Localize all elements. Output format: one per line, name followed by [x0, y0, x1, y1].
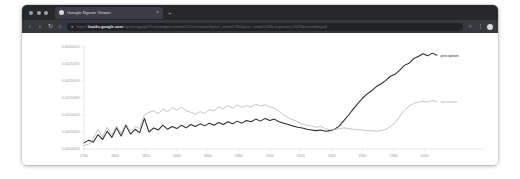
home-icon[interactable]: ⌂ — [57, 24, 63, 30]
ngram-chart: 0.003000%0.002500%0.002000%0.001500%0.00… — [22, 33, 498, 165]
y-axis-tick-label: 0.002500% — [62, 62, 81, 66]
y-axis-tick-label: 0.001500% — [62, 96, 81, 100]
window-controls — [29, 11, 48, 15]
address-bar-url: https://books.google.com/ngrams/graph?co… — [76, 24, 326, 29]
legend-label-sensation[interactable]: sensation — [440, 99, 457, 104]
browser-window: Google Ngram Viewer × + ‹ › ↻ ⌂ ● https:… — [22, 5, 498, 165]
y-axis-tick-label: 0.001000% — [62, 113, 81, 117]
x-axis-tick-label: 2000 — [421, 154, 429, 158]
minimize-window-icon[interactable] — [37, 11, 41, 15]
chart-background — [22, 33, 498, 165]
y-axis-tick-label: 0.002000% — [62, 79, 81, 83]
x-axis-tick-label: 1980 — [390, 154, 398, 158]
x-axis-tick-label: 1920 — [297, 154, 305, 158]
ngram-chart-svg: 0.003000%0.002500%0.002000%0.001500%0.00… — [22, 33, 498, 165]
extensions-menu-icon[interactable]: ⋮ — [477, 24, 483, 30]
browser-titlebar: Google Ngram Viewer × + — [22, 5, 498, 20]
reload-icon[interactable]: ↻ — [47, 24, 53, 30]
y-axis-tick-label: 0.003000% — [62, 45, 81, 49]
x-axis-tick-label: 1800 — [111, 154, 119, 158]
forward-icon[interactable]: › — [37, 24, 43, 30]
tab-title: Google Ngram Viewer — [67, 10, 153, 15]
y-axis-tick-label: 0.000000% — [62, 147, 81, 151]
x-axis-tick-label: 1820 — [142, 154, 150, 158]
bookmark-star-icon[interactable]: ☆ — [467, 24, 473, 30]
back-icon[interactable]: ‹ — [27, 24, 33, 30]
screenshot-root: Google Ngram Viewer × + ‹ › ↻ ⌂ ● https:… — [0, 0, 520, 179]
y-axis-tick-label: 0.000500% — [62, 130, 81, 134]
legend-label-perception[interactable]: perception — [440, 53, 458, 58]
profile-avatar-icon[interactable] — [487, 24, 493, 30]
close-window-icon[interactable] — [29, 11, 33, 15]
lock-icon: ● — [71, 25, 73, 29]
x-axis-tick-label: 1900 — [266, 154, 274, 158]
x-axis-tick-label: 1940 — [328, 154, 336, 158]
x-axis-tick-label: 1780 — [80, 154, 88, 158]
zoom-window-icon[interactable] — [44, 11, 48, 15]
url-domain: books.google.com — [88, 24, 123, 29]
x-axis-tick-label: 1840 — [173, 154, 181, 158]
url-scheme: https:// — [76, 24, 88, 29]
x-axis-tick-label: 1860 — [204, 154, 212, 158]
browser-toolbar: ‹ › ↻ ⌂ ● https://books.google.com/ngram… — [22, 20, 498, 33]
new-tab-button[interactable]: + — [168, 10, 172, 16]
close-tab-icon[interactable]: × — [156, 10, 159, 15]
page-content: 0.003000%0.002500%0.002000%0.001500%0.00… — [22, 33, 498, 165]
x-axis-tick-label: 1960 — [359, 154, 367, 158]
address-bar[interactable]: ● https://books.google.com/ngrams/graph?… — [67, 23, 463, 31]
page-favicon-icon — [59, 10, 64, 15]
browser-tab[interactable]: Google Ngram Viewer × — [55, 7, 163, 19]
url-path: /ngrams/graph?content=perception%2Csensa… — [123, 24, 327, 29]
x-axis-tick-label: 1880 — [235, 154, 243, 158]
